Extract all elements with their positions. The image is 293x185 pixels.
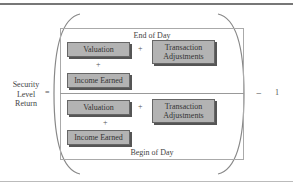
fraction-divider [60, 93, 244, 94]
numerator-plus-right: + [138, 44, 143, 53]
label-line-2: Level [6, 90, 46, 100]
transaction-line-2: Adjustments [163, 52, 203, 61]
denominator-plus-right: + [138, 102, 143, 111]
equals-sign: = [45, 88, 50, 97]
end-of-day-caption: End of Day [60, 31, 244, 40]
numerator-transaction-box: Transaction Adjustments [152, 40, 215, 64]
numerator-income-box: Income Earned [67, 73, 130, 88]
numerator-plus-down: + [96, 60, 101, 69]
label-line-3: Return [6, 99, 46, 109]
denominator-valuation-box: Valuation [67, 100, 130, 115]
denominator-plus-down: + [103, 118, 108, 127]
minus-sign: − [256, 88, 262, 99]
begin-of-day-caption: Begin of Day [60, 148, 244, 157]
security-level-return-label: Security Level Return [6, 80, 46, 109]
label-line-1: Security [6, 80, 46, 90]
numerator-valuation-box: Valuation [67, 42, 130, 57]
one-constant: 1 [275, 88, 279, 97]
denominator-transaction-box: Transaction Adjustments [152, 99, 215, 123]
transaction-line-2: Adjustments [163, 111, 203, 120]
transaction-line-1: Transaction [165, 43, 202, 52]
transaction-line-1: Transaction [165, 102, 202, 111]
denominator-income-box: Income Earned [67, 130, 130, 145]
